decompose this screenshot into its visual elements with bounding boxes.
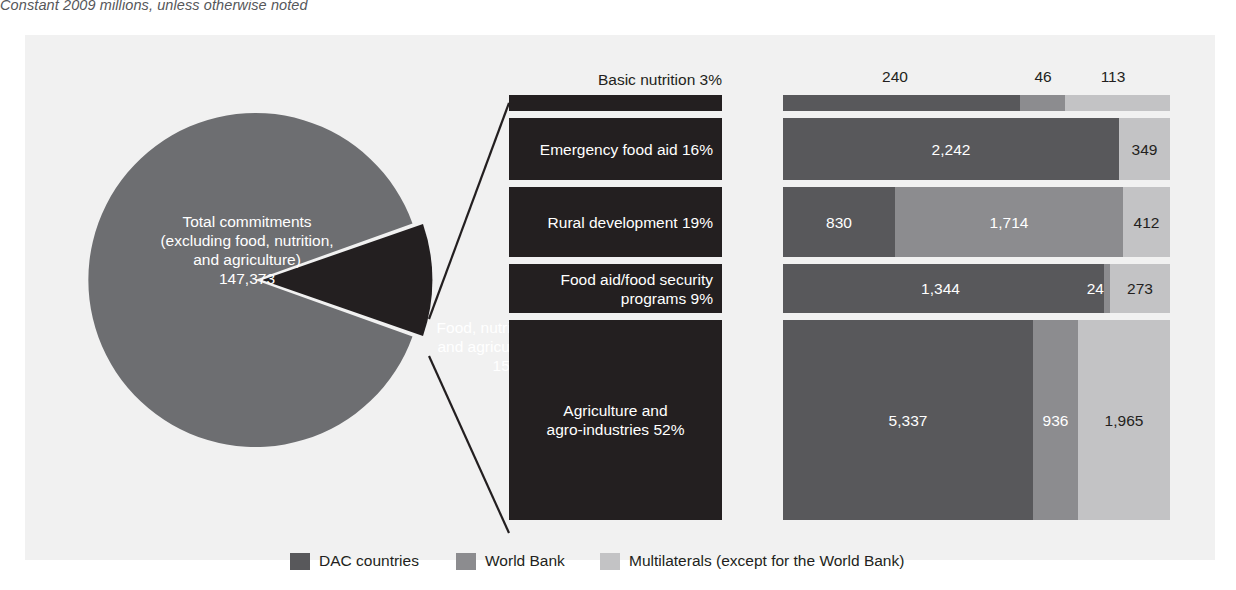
value-label-rural-development-world-bank: 1,714 (990, 214, 1029, 231)
value-label-basic-nutrition-multilaterals: 113 (1083, 68, 1143, 86)
chart-panel: Total commitments (excluding food, nutri… (25, 35, 1215, 560)
bar-segment-rural-development-dac: 830 (783, 187, 895, 257)
legend-label-world-bank: World Bank (485, 552, 565, 570)
bar-segment-emergency-food-aid-dac: 2,242 (783, 118, 1119, 180)
callout-line-bottom (429, 356, 509, 533)
value-label-agriculture-dac: 5,337 (889, 412, 928, 429)
value-label-agriculture-multilaterals: 1,965 (1105, 412, 1144, 429)
value-label-basic-nutrition-world-bank: 46 (1013, 68, 1073, 86)
bar-segment-rural-development-multilaterals: 412 (1123, 187, 1170, 257)
callout-line-top (429, 103, 509, 319)
legend-item-multilaterals: Multilaterals (except for the World Bank… (600, 551, 904, 571)
value-label-wrap-food-aid-programs-world-bank: 24 (1060, 264, 1104, 313)
category-label-rural-development: Rural development 19% (548, 213, 713, 232)
chart-subtitle: Constant 2009 millions, unless otherwise… (0, 0, 308, 13)
category-label-agriculture-line2: agro-industries 52% (547, 420, 685, 439)
category-label-emergency-food-aid: Emergency food aid 16% (540, 140, 713, 159)
pie-label-total-line1: Total commitments (132, 212, 362, 231)
bar-segment-agriculture-multilaterals: 1,965 (1078, 320, 1170, 520)
bar-segment-basic-nutrition-world-bank (1020, 95, 1065, 111)
legend-swatch-dac-countries (290, 553, 310, 570)
value-label-basic-nutrition-dac: 240 (865, 68, 925, 86)
pie-label-total-line3: and agriculture) (132, 250, 362, 269)
value-label-rural-development-multilaterals: 412 (1134, 214, 1160, 231)
bar-segment-emergency-food-aid-multilaterals: 349 (1119, 118, 1170, 180)
category-block-food-aid-programs: Food aid/food security programs 9% (509, 264, 722, 313)
bar-segment-agriculture-world-bank: 936 (1033, 320, 1078, 520)
category-label-food-aid-line2: programs 9% (560, 289, 713, 308)
bar-segment-agriculture-dac: 5,337 (783, 320, 1033, 520)
value-label-emergency-food-aid-dac: 2,242 (932, 141, 971, 158)
pie-label-total-value: 147,373 (132, 269, 362, 288)
category-block-agriculture: Agriculture and agro-industries 52% (509, 320, 722, 520)
legend-swatch-multilaterals (600, 553, 620, 570)
value-label-food-aid-programs-dac: 1,344 (921, 280, 960, 297)
category-label-agriculture-line1: Agriculture and (547, 401, 685, 420)
bar-segment-food-aid-programs-multilaterals: 273 (1110, 264, 1170, 313)
category-block-basic-nutrition (509, 95, 722, 111)
legend-item-dac-countries: DAC countries (290, 551, 419, 571)
bar-segment-basic-nutrition-multilaterals (1065, 95, 1170, 111)
legend-label-multilaterals: Multilaterals (except for the World Bank… (629, 552, 904, 570)
bar-segment-basic-nutrition-dac (783, 95, 1020, 111)
category-block-emergency-food-aid: Emergency food aid 16% (509, 118, 722, 180)
value-label-agriculture-world-bank: 936 (1043, 412, 1069, 429)
pie-label-total-commitments: Total commitments (excluding food, nutri… (132, 212, 362, 288)
pie-chart: Total commitments (excluding food, nutri… (80, 100, 440, 460)
value-label-food-aid-programs-multilaterals: 273 (1127, 280, 1153, 297)
pie-label-total-line2: (excluding food, nutrition, (132, 231, 362, 250)
category-label-food-aid-line1: Food aid/food security (560, 270, 713, 289)
bar-segment-rural-development-world-bank: 1,714 (895, 187, 1123, 257)
legend-swatch-world-bank (456, 553, 476, 570)
value-label-food-aid-programs-world-bank: 24 (1087, 280, 1104, 297)
value-label-rural-development-dac: 830 (826, 214, 852, 231)
bar-segment-food-aid-programs-dac: 1,344 (783, 264, 1104, 313)
category-label-basic-nutrition: Basic nutrition 3% (509, 71, 722, 89)
legend-label-dac-countries: DAC countries (319, 552, 419, 570)
value-label-emergency-food-aid-multilaterals: 349 (1132, 141, 1158, 158)
legend-item-world-bank: World Bank (456, 551, 565, 571)
category-block-rural-development: Rural development 19% (509, 187, 722, 257)
